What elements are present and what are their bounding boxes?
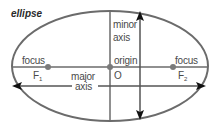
f1-label: F1 bbox=[33, 71, 42, 84]
focus-left-label: focus bbox=[22, 56, 45, 66]
origin-label: origin bbox=[114, 56, 137, 66]
major-axis-label-line2: axis bbox=[75, 82, 92, 92]
focus-f1-dot bbox=[45, 64, 51, 70]
minor-axis-label-line2: axis bbox=[113, 33, 130, 43]
origin-dot bbox=[107, 64, 113, 70]
diagram-title: ellipse bbox=[11, 8, 42, 19]
minor-axis-label-line1: minor bbox=[113, 20, 137, 30]
f2-label: F2 bbox=[178, 71, 187, 84]
origin-point-label: O bbox=[114, 71, 122, 81]
focus-right-label: focus bbox=[175, 56, 198, 66]
